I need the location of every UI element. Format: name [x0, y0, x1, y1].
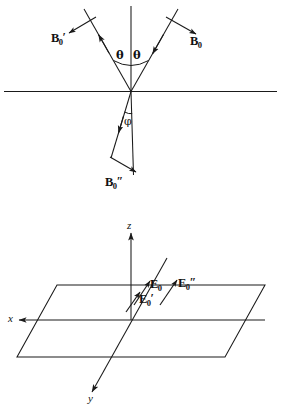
label-incident-b-subscript: 0: [198, 40, 202, 50]
upper-panel-graphics: [4, 6, 277, 175]
reflected-field-arrow: [69, 17, 96, 33]
label-theta-incidence: θ: [116, 50, 124, 62]
label-reflected-b-field: B0′: [51, 31, 65, 46]
lower-panel-graphics: [17, 233, 265, 392]
incident-ray-direction-arrow: [153, 35, 164, 55]
label-reflected-e-prime: ′: [151, 291, 154, 305]
label-phi-refraction: φ: [124, 116, 132, 127]
label-transmitted-b-doubleprime: ″: [117, 174, 123, 188]
reflected-ray-direction-arrow: [99, 35, 110, 54]
phi-angle-arc: [125, 112, 133, 114]
transmitted-ray-direction-arrow: [119, 116, 124, 133]
normal-line-lower: [131, 92, 134, 176]
label-x-axis: x: [8, 313, 13, 324]
physics-figure: B0′ B0 θ θ φ B0″ z x y E0 E0″ E0′: [0, 0, 281, 416]
label-theta-reflection: θ: [133, 50, 141, 62]
label-reflected-b-prime: ′: [63, 30, 66, 44]
label-transmitted-e-field: E0″: [178, 276, 196, 291]
transmitted-e-field-arrow: [160, 280, 177, 305]
label-incident-e-subscript: 0: [158, 283, 162, 293]
label-z-axis: z: [127, 220, 131, 231]
label-y-axis: y: [88, 393, 93, 404]
incident-field-arrow: [166, 17, 196, 34]
label-reflected-e-field: E0′: [139, 292, 153, 307]
transmitted-field-arrow: [110, 157, 136, 172]
label-incident-e-field: E0: [150, 277, 162, 292]
label-transmitted-b-field: B0″: [105, 175, 123, 190]
label-incident-b-field: B0: [190, 34, 202, 49]
label-transmitted-e-doubleprime: ″: [190, 275, 196, 289]
figure-vector-graphics: [0, 0, 281, 416]
